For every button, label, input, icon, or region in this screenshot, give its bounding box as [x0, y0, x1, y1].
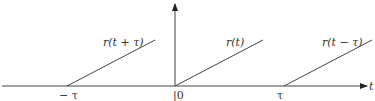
tick-label-tau: τ — [277, 89, 283, 101]
ramp-shift-diagram: t r(t + τ) r(t) r(t − τ) − τ |0 τ — [0, 0, 375, 101]
ramp-r-t — [175, 40, 263, 86]
tick-label-neg-tau: − τ — [59, 89, 78, 101]
ramp-label-r-t-plus-tau: r(t + τ) — [103, 36, 144, 49]
tick-label-zero: |0 — [173, 89, 184, 101]
t-axis-label: t — [369, 80, 374, 93]
ramp-label-r-t: r(t) — [226, 36, 244, 49]
ramp-label-r-t-minus-tau: r(t − τ) — [322, 36, 363, 49]
